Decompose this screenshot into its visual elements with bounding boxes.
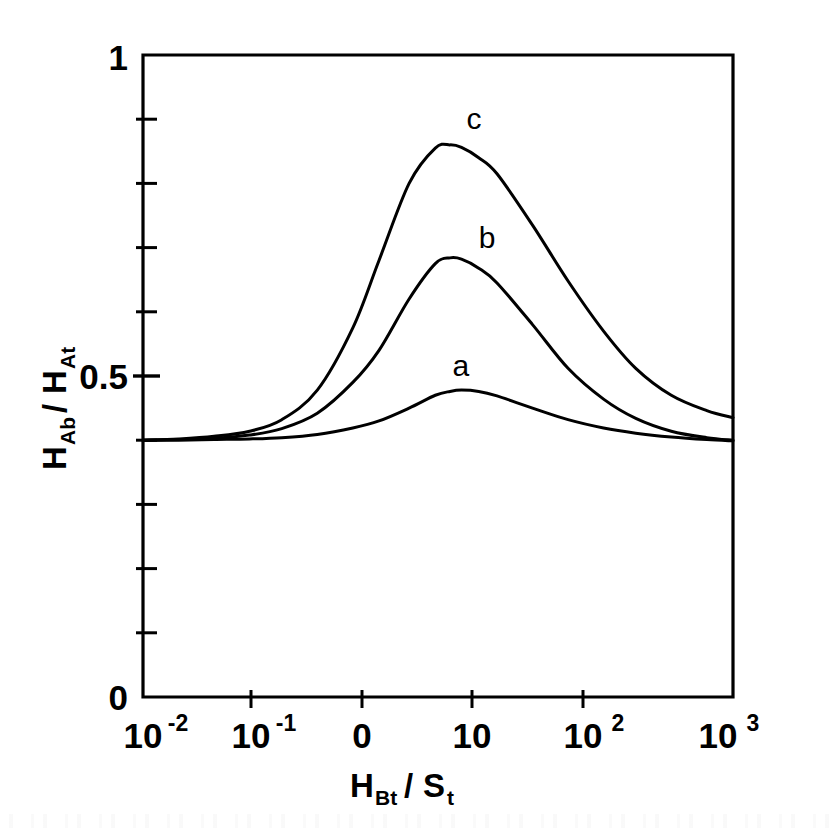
- curve-annotations: a b c: [453, 102, 496, 382]
- x-axis-title-second-sub: t: [447, 786, 454, 809]
- x-axis-title-main-sub: Bt: [375, 786, 397, 809]
- curve-label-a: a: [453, 349, 470, 382]
- x-tick-exp-1e2: 2: [612, 710, 625, 736]
- x-tick-label-1e2: 10 2: [564, 710, 625, 755]
- y-axis-title-main-sub: Ab: [56, 417, 79, 445]
- data-curves: [143, 144, 733, 441]
- figure-container: 1 0.5 0 10 -2 10 -1 0 10 10 2 10 3: [0, 0, 835, 828]
- x-tick-label-1e-2: 10 -2: [124, 710, 189, 755]
- x-tick-exp-1e3: 3: [747, 710, 760, 736]
- x-tick-base-1e1: 10: [453, 716, 492, 755]
- y-tick-label-1: 1: [109, 38, 128, 77]
- x-tick-exp-1e-1: -1: [276, 710, 297, 736]
- x-tick-label-1e-1: 10 -1: [232, 710, 297, 755]
- x-tick-base-1e2: 10: [564, 716, 603, 755]
- semilog-line-chart: 1 0.5 0 10 -2 10 -1 0 10 10 2 10 3: [0, 0, 835, 828]
- x-axis-title-main: H: [350, 767, 374, 804]
- x-axis-ticks: [251, 690, 583, 708]
- x-tick-base-1e0: 0: [352, 716, 371, 755]
- y-axis-title-divider: /: [36, 404, 73, 413]
- x-tick-label-1e1: 10: [453, 716, 492, 755]
- x-tick-label-1e3: 10 3: [699, 710, 760, 755]
- y-axis-title-main: H: [36, 446, 73, 470]
- curve-label-c: c: [466, 102, 481, 135]
- y-axis-title-second: H: [36, 370, 73, 394]
- x-tick-base-1e-2: 10: [124, 716, 163, 755]
- x-axis-title-second: S: [423, 767, 445, 804]
- curve-b: [143, 257, 733, 440]
- y-tick-label-0.5: 0.5: [79, 357, 128, 396]
- x-tick-label-1e0: 0: [352, 716, 371, 755]
- x-tick-base-1e-1: 10: [232, 716, 271, 755]
- y-axis-title: H Ab / H At: [36, 347, 79, 470]
- y-tick-label-0: 0: [109, 678, 128, 717]
- x-tick-exp-1e-2: -2: [168, 710, 188, 736]
- y-axis-title-second-sub: At: [56, 347, 79, 369]
- x-axis-title: H Bt / S t: [350, 767, 454, 809]
- x-tick-base-1e3: 10: [699, 716, 738, 755]
- x-axis-title-divider: /: [404, 767, 413, 804]
- y-axis-ticks: [133, 119, 160, 633]
- curve-label-b: b: [479, 221, 496, 254]
